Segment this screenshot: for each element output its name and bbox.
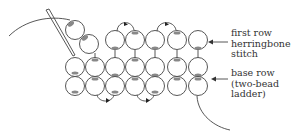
thread-exit (197, 96, 230, 130)
thread-path-bottom (97, 95, 154, 101)
label-line: ladder) (231, 89, 279, 100)
thread-tail (9, 18, 70, 36)
label-first-row: first row herringbone stitch (231, 28, 291, 60)
label-arrows (212, 42, 228, 79)
label-base-row: base row (two-bead ladder) (231, 68, 279, 100)
label-line: stitch (231, 49, 291, 60)
label-line: base row (231, 68, 279, 79)
label-line: first row (231, 28, 291, 39)
